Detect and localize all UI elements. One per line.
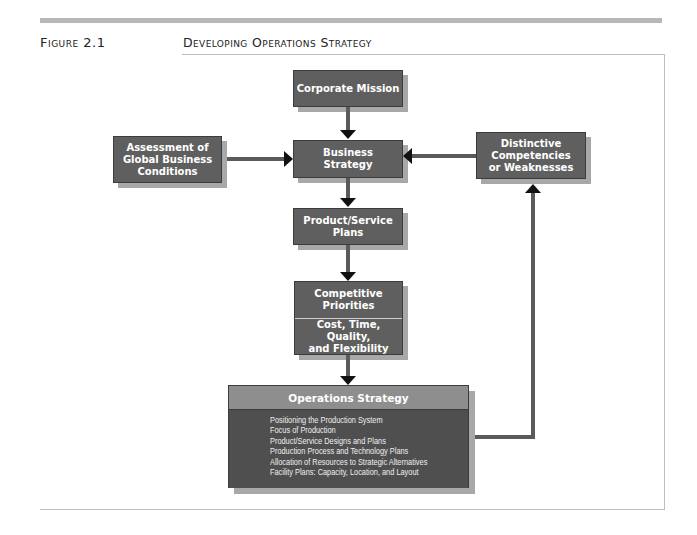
list-item: Allocation of Resources to Strategic Alt…	[270, 457, 440, 467]
arrow-up-icon	[525, 184, 541, 193]
figure-frame	[182, 54, 665, 320]
connector-global-to-business	[227, 157, 285, 161]
operations-strategy-list: Positioning the Production System Focus …	[229, 410, 468, 488]
node-business-strategy: Business Strategy	[293, 140, 403, 178]
arrow-down-icon	[340, 198, 356, 207]
arrow-down-icon	[340, 130, 356, 139]
figure-label: Figure 2.1	[40, 35, 105, 50]
node-competitive-priorities: Competitive Priorities Cost, Time, Quali…	[294, 281, 403, 355]
list-item: Product/Service Designs and Plans	[270, 436, 440, 446]
connector-operations-feedback-vertical	[531, 193, 535, 439]
node-product-service-plans: Product/Service Plans	[293, 208, 403, 245]
figure-frame-right	[664, 319, 665, 509]
arrow-right-icon	[284, 151, 293, 167]
node-corporate-mission: Corporate Mission	[293, 70, 403, 107]
connector-product-to-priorities	[346, 245, 350, 272]
list-item: Facility Plans: Capacity, Location, and …	[270, 467, 440, 477]
competitive-priorities-title: Competitive Priorities	[295, 282, 402, 319]
node-operations-strategy: Operations Strategy Positioning the Prod…	[228, 385, 469, 488]
node-label: Product/Service Plans	[303, 215, 392, 239]
node-label: Corporate Mission	[297, 83, 400, 95]
figure-title: Developing Operations Strategy	[183, 35, 372, 50]
figure-frame-bottom	[40, 509, 665, 510]
connector-priorities-to-operations	[346, 355, 350, 376]
node-global-business-conditions: Assessment of Global Business Conditions	[113, 136, 222, 183]
operations-strategy-title: Operations Strategy	[229, 386, 468, 410]
list-item: Positioning the Production System	[270, 415, 440, 425]
node-label: Distinctive Competencies or Weaknesses	[489, 138, 574, 174]
node-label: Assessment of Global Business Conditions	[123, 142, 212, 178]
arrow-down-icon	[340, 376, 356, 385]
list-item: Focus of Production	[270, 425, 440, 435]
node-label: Business Strategy	[323, 147, 373, 171]
arrow-down-icon	[340, 272, 356, 281]
competitive-priorities-detail: Cost, Time, Quality, and Flexibility	[295, 319, 402, 355]
connector-business-to-product	[346, 178, 350, 198]
connector-competencies-to-business	[412, 154, 476, 158]
connector-mission-to-business	[346, 107, 350, 130]
top-rule	[40, 18, 662, 23]
arrow-left-icon	[403, 148, 412, 164]
node-distinctive-competencies: Distinctive Competencies or Weaknesses	[476, 132, 586, 179]
list-item: Production Process and Technology Plans	[270, 446, 440, 456]
connector-operations-feedback-horizontal	[475, 435, 535, 439]
